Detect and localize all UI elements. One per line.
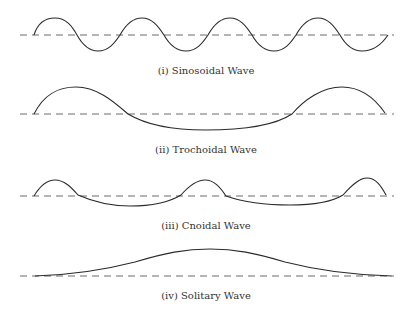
panel-cnoidal [20, 178, 394, 206]
caption-sinusoidal: (i) Sinosoidal Wave [0, 65, 412, 77]
trochoidal-wave-curve [34, 87, 385, 130]
cnoidal-wave-curve [34, 178, 386, 206]
solitary-wave-curve [35, 249, 392, 276]
panel-sinusoidal [20, 18, 394, 51]
caption-trochoidal: (ii) Trochoidal Wave [0, 144, 412, 156]
caption-cnoidal: (iii) Cnoidal Wave [0, 220, 412, 232]
panel-solitary [20, 249, 394, 276]
caption-solitary: (iv) Solitary Wave [0, 290, 412, 302]
panel-trochoidal [20, 87, 394, 130]
wave-types-figure [0, 0, 412, 320]
